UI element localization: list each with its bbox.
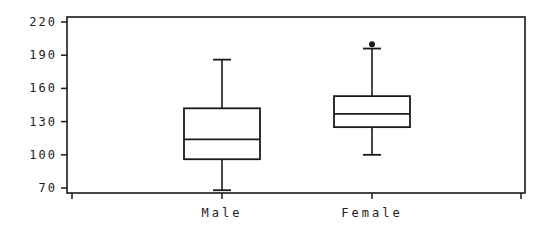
box-male xyxy=(184,60,260,191)
y-tick-label: 220 xyxy=(29,15,57,29)
y-tick-label: 130 xyxy=(29,115,57,129)
y-tick-label: 190 xyxy=(29,48,57,62)
outlier-point xyxy=(369,41,375,47)
x-category-label: Male xyxy=(202,206,243,220)
iqr-box xyxy=(334,96,410,127)
boxes xyxy=(184,41,410,190)
y-tick-label: 70 xyxy=(39,181,57,195)
x-category-label: Female xyxy=(341,206,402,220)
iqr-box xyxy=(184,108,260,159)
y-axis: 70100130160190220 xyxy=(29,15,67,195)
x-axis: MaleFemale xyxy=(72,193,521,220)
y-tick-label: 160 xyxy=(29,81,57,95)
y-tick-label: 100 xyxy=(29,148,57,162)
box-female xyxy=(334,41,410,155)
box-plot-chart: 70100130160190220 MaleFemale xyxy=(0,0,551,227)
plot-frame xyxy=(67,17,525,193)
plot-border xyxy=(67,17,525,193)
